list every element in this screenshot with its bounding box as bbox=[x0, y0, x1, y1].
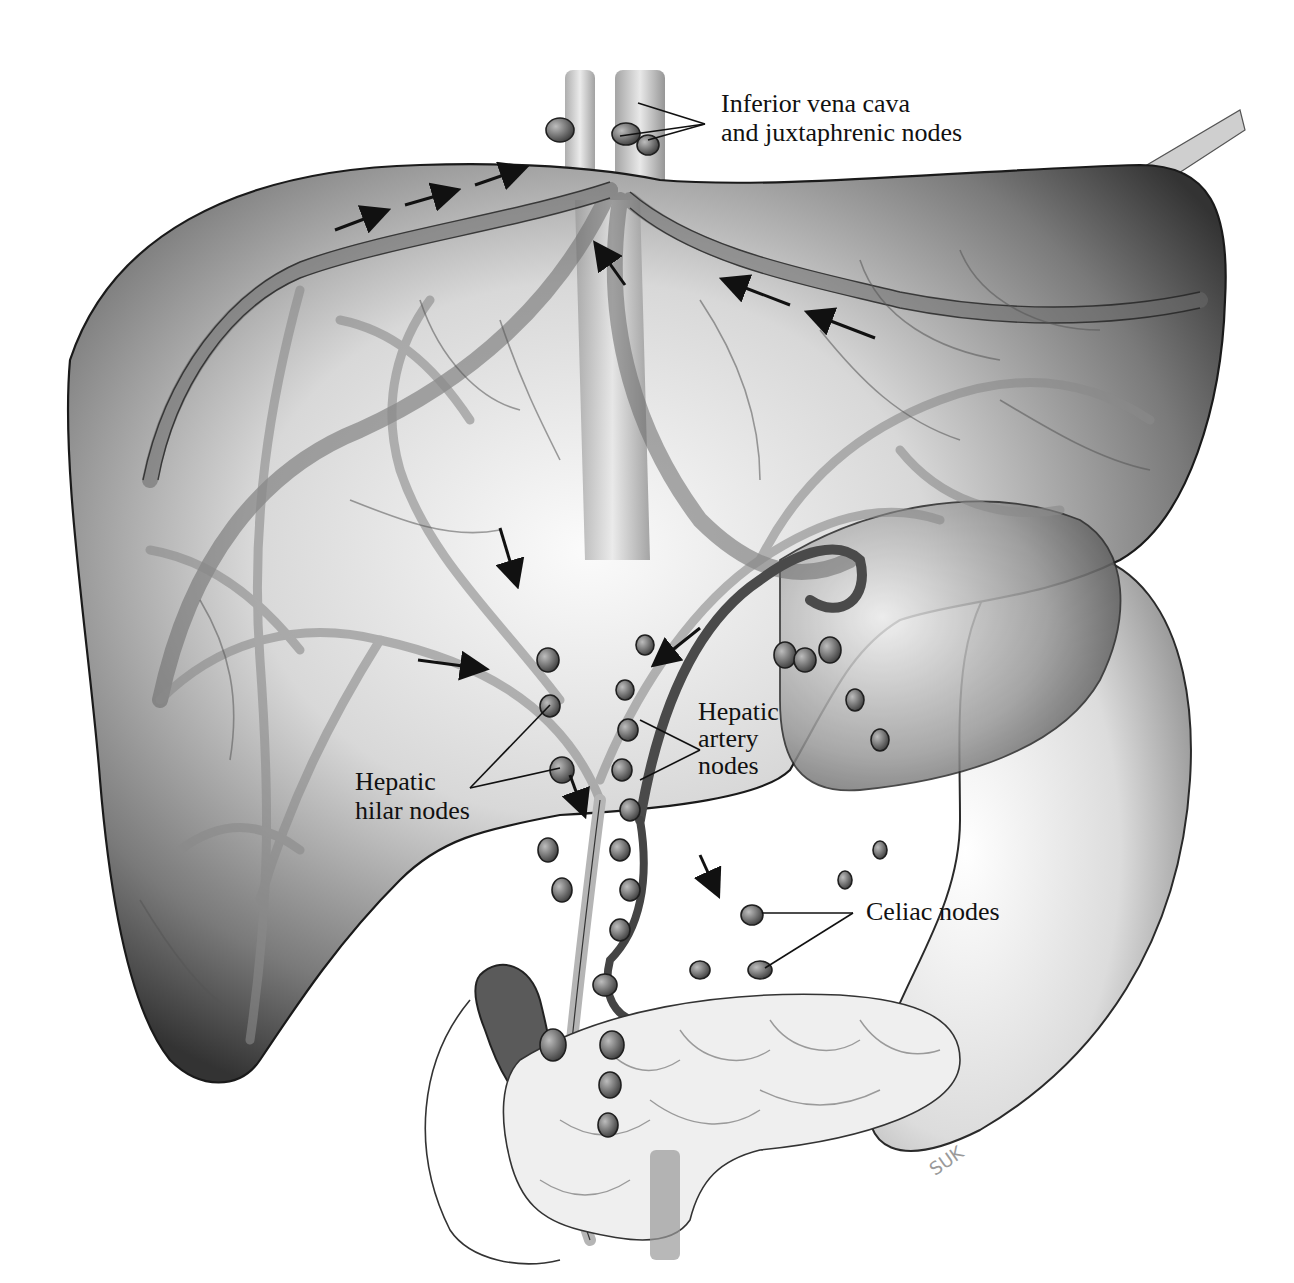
lymph-node bbox=[620, 879, 640, 901]
lymph-node bbox=[871, 729, 889, 751]
lymph-node bbox=[538, 838, 558, 862]
lymph-node bbox=[616, 680, 634, 700]
lymph-node bbox=[546, 118, 574, 142]
lymph-node bbox=[748, 961, 772, 979]
lymph-node bbox=[593, 974, 617, 996]
label-hepatic-hilar-nodes: Hepatic hilar nodes bbox=[355, 767, 470, 825]
label-line: hilar nodes bbox=[355, 796, 470, 825]
lymph-node bbox=[794, 648, 816, 672]
lymph-node bbox=[610, 919, 630, 941]
label-line: Inferior vena cava bbox=[721, 89, 962, 118]
label-line: and juxtaphrenic nodes bbox=[721, 118, 962, 147]
lymph-node bbox=[600, 1031, 624, 1059]
lymph-node bbox=[618, 719, 638, 741]
lymph-node bbox=[537, 648, 559, 672]
lymph-node bbox=[873, 841, 887, 859]
label-line: Hepatic bbox=[698, 698, 779, 725]
lymph-node bbox=[774, 642, 796, 668]
label-line: nodes bbox=[698, 752, 779, 779]
label-ivc-juxtaphrenic-nodes: Inferior vena cava and juxtaphrenic node… bbox=[721, 89, 962, 147]
label-line: Celiac nodes bbox=[866, 897, 1000, 926]
lymph-node bbox=[741, 905, 763, 925]
lymph-node bbox=[690, 961, 710, 979]
anatomy-drawing bbox=[0, 0, 1294, 1283]
arrow-icon bbox=[700, 855, 715, 888]
lymph-node bbox=[612, 759, 632, 781]
label-celiac-nodes: Celiac nodes bbox=[866, 897, 1000, 926]
lymph-node bbox=[819, 637, 841, 663]
lymph-node bbox=[610, 839, 630, 861]
lymph-node bbox=[838, 871, 852, 889]
lymph-node bbox=[540, 1029, 566, 1061]
lymph-node bbox=[636, 635, 654, 655]
lymph-node bbox=[552, 878, 572, 902]
liver-lymphatic-illustration: Inferior vena cava and juxtaphrenic node… bbox=[0, 0, 1294, 1283]
lymph-node bbox=[598, 1113, 618, 1137]
lymph-node bbox=[620, 799, 640, 821]
lower-vessel bbox=[650, 1150, 680, 1260]
lymph-node bbox=[599, 1072, 621, 1098]
label-line: artery bbox=[698, 725, 779, 752]
label-hepatic-artery-nodes: Hepatic artery nodes bbox=[698, 698, 779, 779]
lymph-node bbox=[846, 689, 864, 711]
label-line: Hepatic bbox=[355, 767, 470, 796]
